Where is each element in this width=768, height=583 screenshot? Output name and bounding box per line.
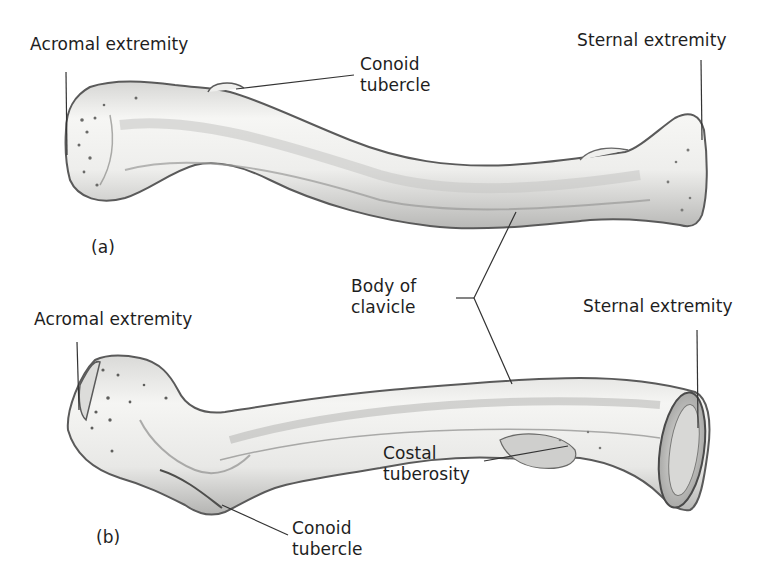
leader-body-bracket: [474, 212, 516, 384]
caption-b: (b): [96, 527, 120, 548]
label-body-line1: Body of: [351, 276, 416, 297]
clavicle-diagram: Acromal extremity Conoid tubercle Sterna…: [0, 0, 768, 583]
label-b-costal-tuberosity: Costal tuberosity: [383, 443, 470, 485]
label-b-costal-line1: Costal: [383, 443, 470, 464]
label-a-conoid-line2: tubercle: [360, 75, 431, 96]
label-b-acromal-extremity: Acromal extremity: [34, 309, 192, 330]
label-body-line2: clavicle: [351, 297, 416, 318]
label-a-conoid-tubercle: Conoid tubercle: [360, 54, 431, 96]
caption-a: (a): [91, 237, 115, 258]
label-b-costal-line2: tuberosity: [383, 464, 470, 485]
label-a-sternal-extremity: Sternal extremity: [577, 30, 727, 51]
label-b-sternal-extremity: Sternal extremity: [583, 296, 733, 317]
label-b-conoid-tubercle: Conoid tubercle: [292, 518, 363, 560]
label-a-acromal-extremity: Acromal extremity: [30, 34, 188, 55]
clavicle-b-bone: [68, 356, 712, 515]
label-a-conoid-line1: Conoid: [360, 54, 431, 75]
label-b-conoid-line2: tubercle: [292, 539, 363, 560]
leader-b-conoid: [222, 505, 288, 535]
label-body-of-clavicle: Body of clavicle: [351, 276, 416, 318]
clavicle-a-bone: [66, 81, 707, 228]
label-b-conoid-line1: Conoid: [292, 518, 363, 539]
leader-a-conoid: [236, 75, 354, 89]
